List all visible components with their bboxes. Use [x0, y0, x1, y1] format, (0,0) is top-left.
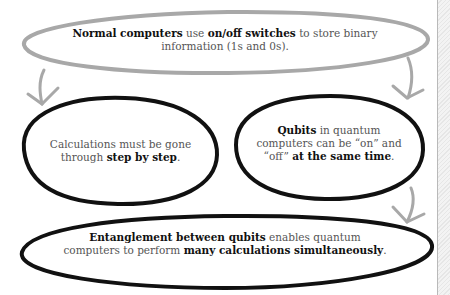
- arrow-to-entanglement: [393, 188, 424, 222]
- node-text: use: [183, 27, 208, 39]
- node-text: .: [383, 244, 386, 256]
- arrow-to-step-by-step: [28, 70, 58, 104]
- node-text-bold: at the same time: [292, 150, 391, 162]
- node-step-by-step: Calculations must be gone through step b…: [38, 138, 203, 164]
- node-text-bold: on/off switches: [208, 27, 296, 39]
- node-text: .: [177, 151, 180, 163]
- node-normal-computers: Normal computers use on/off switches to …: [40, 27, 410, 53]
- node-entanglement: Entanglement between qubits enables quan…: [60, 231, 390, 257]
- node-text-bold: many calculations simultaneously: [184, 244, 384, 256]
- node-text-bold: Entanglement between qubits: [89, 231, 266, 243]
- node-text-bold: step by step: [107, 151, 177, 163]
- node-text: .: [391, 150, 394, 162]
- node-text-bold: Normal computers: [72, 27, 182, 39]
- node-text-bold: Qubits: [277, 124, 316, 136]
- arrow-to-qubits: [393, 58, 423, 98]
- node-qubits: Qubits in quantum computers can be “on” …: [250, 124, 408, 163]
